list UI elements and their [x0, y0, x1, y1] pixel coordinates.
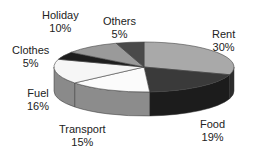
label-fuel-name: Fuel	[27, 87, 49, 100]
pie-top-face	[54, 42, 234, 92]
label-holiday-name: Holiday	[42, 9, 79, 22]
label-rent: Rent 30%	[212, 28, 235, 54]
label-fuel: Fuel 16%	[27, 87, 49, 113]
label-food-name: Food	[200, 118, 225, 131]
label-rent-pct: 30%	[212, 41, 235, 54]
label-others-name: Others	[103, 15, 136, 28]
label-transport-name: Transport	[59, 123, 106, 136]
label-rent-name: Rent	[212, 28, 235, 41]
label-others: Others 5%	[103, 15, 136, 41]
label-others-pct: 5%	[103, 28, 136, 41]
label-clothes-name: Clothes	[12, 44, 49, 57]
label-holiday-pct: 10%	[42, 22, 79, 35]
label-clothes-pct: 5%	[12, 57, 49, 70]
label-holiday: Holiday 10%	[42, 9, 79, 35]
label-transport-pct: 15%	[59, 136, 106, 149]
label-food: Food 19%	[200, 118, 225, 144]
label-food-pct: 19%	[200, 131, 225, 144]
label-fuel-pct: 16%	[27, 100, 49, 113]
label-transport: Transport 15%	[59, 123, 106, 149]
label-clothes: Clothes 5%	[12, 44, 49, 70]
